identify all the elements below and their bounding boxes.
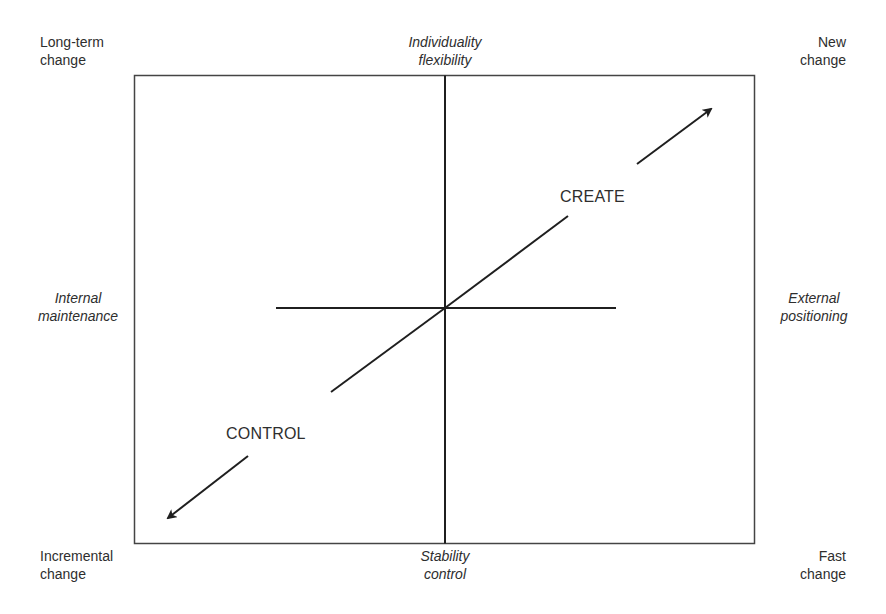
corner-label-bottom-left-line1: Incremental	[40, 547, 113, 565]
axis-label-bottom-line2: control	[365, 565, 525, 583]
axis-label-top: Individuality flexibility	[365, 33, 525, 69]
axis-label-bottom: Stability control	[365, 547, 525, 583]
create-arrow	[637, 109, 711, 164]
corner-label-top-right-line1: New	[800, 33, 846, 51]
axis-label-top-line1: Individuality	[365, 33, 525, 51]
corner-label-bottom-left-line2: change	[40, 565, 113, 583]
corner-label-bottom-right-line1: Fast	[800, 547, 846, 565]
axis-label-right-line2: positioning	[764, 307, 864, 325]
corner-label-bottom-left: Incremental change	[40, 547, 113, 583]
corner-label-top-left-line1: Long-term	[40, 33, 104, 51]
corner-label-bottom-right-line2: change	[800, 565, 846, 583]
corner-label-top-left-line2: change	[40, 51, 104, 69]
axis-label-right: External positioning	[764, 289, 864, 325]
axis-label-left-line2: maintenance	[28, 307, 128, 325]
create-label: CREATE	[560, 188, 625, 206]
diagonal-lower-segment	[331, 308, 445, 392]
diagonal-upper-segment	[445, 216, 568, 308]
corner-label-top-right-line2: change	[800, 51, 846, 69]
axis-label-left: Internal maintenance	[28, 289, 128, 325]
corner-label-top-left: Long-term change	[40, 33, 104, 69]
diagram-canvas	[0, 0, 886, 614]
axis-label-top-line2: flexibility	[365, 51, 525, 69]
axis-label-left-line1: Internal	[28, 289, 128, 307]
axis-label-bottom-line1: Stability	[365, 547, 525, 565]
axis-label-right-line1: External	[764, 289, 864, 307]
control-arrow	[168, 456, 248, 518]
corner-label-top-right: New change	[800, 33, 846, 69]
control-label: CONTROL	[226, 425, 306, 443]
corner-label-bottom-right: Fast change	[800, 547, 846, 583]
